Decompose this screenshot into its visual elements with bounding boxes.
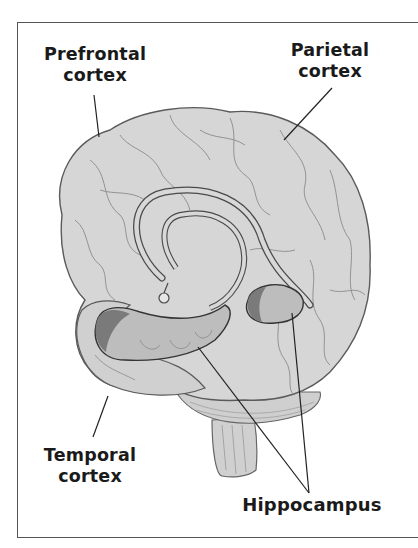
label-parietal-line2: cortex: [280, 61, 380, 82]
leader-prefrontal: [94, 95, 99, 137]
label-temporal-line2: cortex: [34, 466, 146, 487]
label-parietal-line1: Parietal: [280, 40, 380, 61]
brainstem: [212, 418, 257, 477]
label-prefrontal-cortex: Prefrontal cortex: [36, 44, 154, 86]
label-temporal-line1: Temporal: [34, 445, 146, 466]
leader-temporal: [93, 396, 108, 437]
label-hippocampus: Hippocampus: [232, 494, 392, 515]
label-prefrontal-line2: cortex: [36, 65, 154, 86]
hippocampus-right: [247, 285, 304, 324]
label-parietal-cortex: Parietal cortex: [280, 40, 380, 82]
label-temporal-cortex: Temporal cortex: [34, 445, 146, 487]
label-prefrontal-line1: Prefrontal: [36, 44, 154, 65]
